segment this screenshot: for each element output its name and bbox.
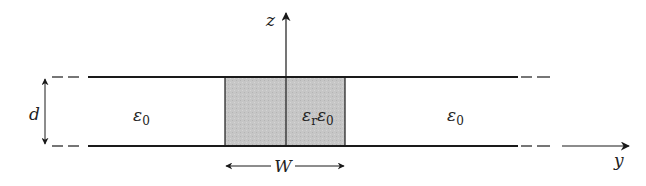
z-axis-label: z [265,10,276,30]
w-label: W [274,156,293,176]
d-label: d [29,104,40,124]
left-region-permittivity: ε0 [133,105,150,128]
right-region-permittivity: ε0 [447,105,464,128]
dielectric-strip [225,77,345,146]
y-axis-label: y [613,150,624,170]
diagram-canvas: y z d W ε0 εrε0 ε0 [0,0,646,186]
